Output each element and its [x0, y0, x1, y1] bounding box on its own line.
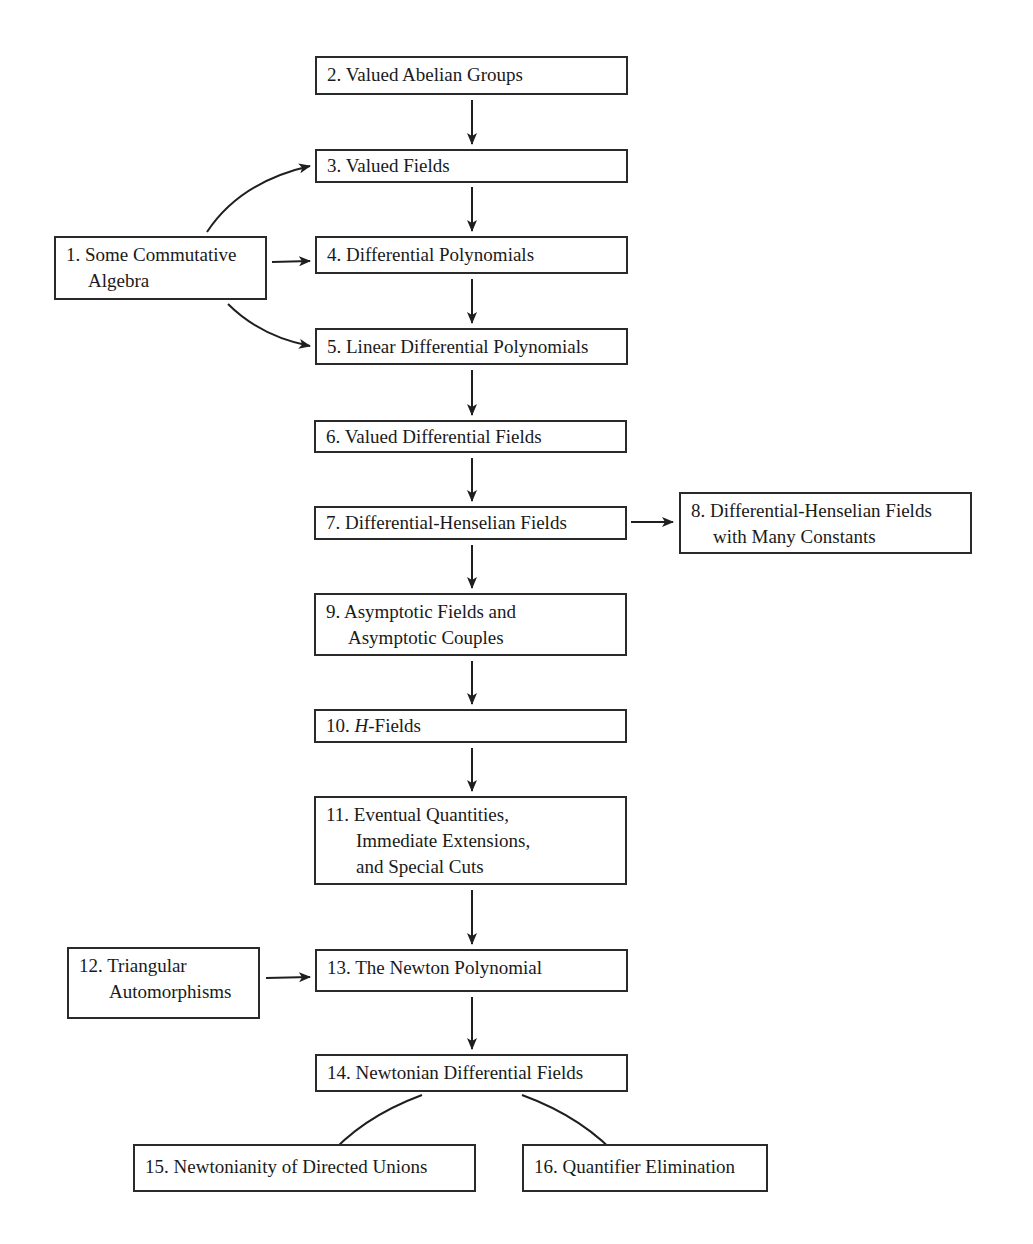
node-label: Asymptotic Couples [326, 625, 615, 651]
node-15-newtonianity-directed-unions: 15. Newtonianity of Directed Unions [133, 1144, 476, 1192]
node-6-valued-differential-fields: 6. Valued Differential Fields [314, 420, 627, 453]
edge-1-3 [207, 166, 310, 232]
node-label: 15. Newtonianity of Directed Unions [145, 1154, 464, 1180]
node-12-triangular-automorphisms: 12. Triangular Automorphisms [67, 947, 260, 1019]
node-14-newtonian-differential-fields: 14. Newtonian Differential Fields [315, 1054, 628, 1092]
node-16-quantifier-elimination: 16. Quantifier Elimination [522, 1144, 768, 1192]
node-label: 14. Newtonian Differential Fields [327, 1060, 616, 1086]
node-label: 9. Asymptotic Fields and [326, 599, 615, 625]
node-5-linear-differential-polynomials: 5. Linear Differential Polynomials [315, 328, 628, 365]
node-10-h-fields: 10. H-Fields [314, 709, 627, 743]
node-label: 13. The Newton Polynomial [327, 955, 616, 981]
node-label: 11. Eventual Quantities, [326, 802, 615, 828]
node-13-newton-polynomial: 13. The Newton Polynomial [315, 949, 628, 992]
node-11-eventual-quantities: 11. Eventual Quantities, Immediate Exten… [314, 796, 627, 885]
node-label: 1. Some Commutative [66, 242, 255, 268]
node-2-valued-abelian-groups: 2. Valued Abelian Groups [315, 56, 628, 95]
node-label: 10. H-Fields [326, 713, 615, 739]
node-label: 5. Linear Differential Polynomials [327, 334, 616, 360]
node-label: 8. Differential-Henselian Fields [691, 498, 960, 524]
node-label: 2. Valued Abelian Groups [327, 62, 616, 88]
node-label: 3. Valued Fields [327, 153, 616, 179]
node-9-asymptotic-fields-couples: 9. Asymptotic Fields and Asymptotic Coup… [314, 593, 627, 656]
node-label: 6. Valued Differential Fields [326, 424, 615, 450]
node-4-differential-polynomials: 4. Differential Polynomials [315, 236, 628, 274]
node-label: 4. Differential Polynomials [327, 242, 616, 268]
edge-12-13 [266, 977, 310, 978]
node-label: with Many Constants [691, 524, 960, 550]
node-1-some-commutative-algebra: 1. Some Commutative Algebra [54, 236, 267, 300]
node-label: Algebra [66, 268, 255, 294]
edge-1-5 [228, 304, 310, 346]
node-3-valued-fields: 3. Valued Fields [315, 149, 628, 183]
node-label: Immediate Extensions, [326, 828, 615, 854]
node-label: and Special Cuts [326, 854, 615, 880]
node-label: 12. Triangular [79, 953, 248, 979]
edge-1-4 [272, 261, 310, 262]
node-label: 7. Differential-Henselian Fields [326, 510, 615, 536]
node-7-differential-henselian-fields: 7. Differential-Henselian Fields [314, 506, 627, 540]
node-label: Automorphisms [79, 979, 248, 1005]
node-8-differential-henselian-many-constants: 8. Differential-Henselian Fields with Ma… [679, 492, 972, 554]
node-label: 16. Quantifier Elimination [534, 1154, 756, 1180]
